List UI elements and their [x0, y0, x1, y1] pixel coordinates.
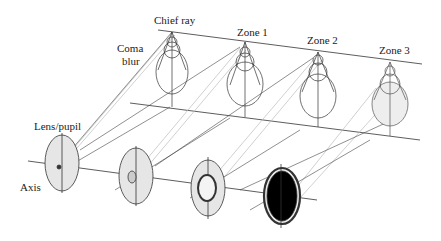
coma-pattern-zone3	[372, 62, 408, 136]
lens-2	[119, 146, 153, 206]
label-coma-blur-2: blur	[122, 55, 140, 67]
coma-pattern-zone1	[227, 42, 263, 117]
lens-1	[45, 133, 79, 193]
label-zone-2: Zone 2	[307, 34, 338, 46]
label-chief-ray: Chief ray	[154, 14, 195, 26]
label-zone-1: Zone 1	[237, 26, 268, 38]
label-zone-3: Zone 3	[379, 44, 410, 56]
label-lens-pupil: Lens/pupil	[34, 120, 81, 132]
label-axis: Axis	[20, 181, 41, 193]
lens-3	[191, 157, 225, 219]
coma-pattern-chief	[156, 32, 188, 107]
lens-4	[264, 164, 300, 228]
label-coma-blur-1: Coma	[117, 42, 143, 54]
